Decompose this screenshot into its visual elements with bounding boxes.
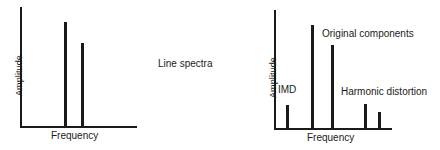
figure-caption: Line spectra [158,58,212,69]
left-x-axis [20,126,137,128]
right-spectrum-panel: Amplitude Frequency IMD Original compone… [220,0,440,150]
right-spectral-line-original-1 [311,25,314,128]
right-spectral-line-imd [286,105,289,128]
right-x-axis-label: Frequency [307,132,354,143]
left-y-axis-label: Amplitude [14,55,24,96]
right-x-axis [274,128,392,130]
left-spectral-line-2 [81,43,84,126]
right-spectral-line-harmonic-1 [364,104,367,128]
line-spectra-figure: Amplitude Frequency Line spectra Amplitu… [0,0,440,150]
annotation-harmonic-distortion: Harmonic distortion [341,86,427,97]
left-spectrum-panel: Amplitude Frequency [0,0,220,150]
left-spectral-line-1 [64,22,67,126]
annotation-imd: IMD [278,84,296,95]
right-y-axis-label: Amplitude [268,57,278,98]
right-spectral-line-harmonic-2 [378,112,381,128]
right-spectral-line-original-2 [331,45,334,128]
left-x-axis-label: Frequency [51,130,98,141]
annotation-original-components: Original components [322,28,414,39]
